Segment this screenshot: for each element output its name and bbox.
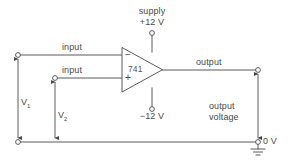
positive-supply-label: +12 V (128, 17, 176, 27)
terminal-output[interactable] (256, 68, 261, 73)
voltage-subscript-v1: 1 (27, 103, 30, 109)
supply-label: supply (128, 6, 176, 16)
voltage-subscript-v2: 2 (64, 116, 67, 122)
output-voltage-label-line2: voltage (209, 112, 239, 122)
output-voltage-label-line1: output (209, 101, 235, 111)
input-label-2: input (62, 65, 82, 75)
terminal-ground-right[interactable] (256, 140, 261, 145)
voltage-label-v1: V1 (21, 97, 31, 111)
terminal-input-1[interactable] (16, 53, 21, 58)
noninverting-input-marker: + (125, 73, 131, 83)
voltage-label-v2: V2 (58, 110, 68, 124)
output-label: output (196, 57, 222, 67)
terminal-ground-left[interactable] (16, 140, 21, 145)
negative-supply-label: −12 V (126, 111, 178, 121)
inverting-input-marker: − (125, 50, 131, 60)
circuit-diagram: supply +12 V −12 V input input V1 V2 out… (0, 0, 293, 165)
ground-label: 0 V (263, 136, 277, 146)
terminal-input-2[interactable] (53, 76, 58, 81)
input-label-1: input (62, 42, 82, 52)
terminal-positive-supply[interactable] (150, 31, 155, 36)
